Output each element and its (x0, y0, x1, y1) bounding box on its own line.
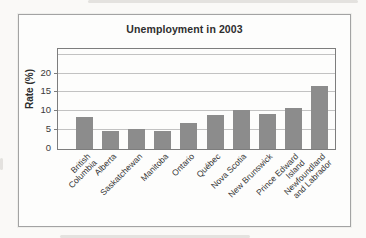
bars-layer (58, 49, 335, 149)
scan-artifact (0, 158, 3, 170)
y-tick-mark-15 (54, 91, 58, 92)
y-tick-mark-5 (54, 129, 58, 130)
scan-artifact (60, 235, 250, 238)
bar-british-columbia (76, 117, 93, 149)
y-tick-label-10: 10 (33, 105, 51, 115)
y-tick-mark-10 (54, 110, 58, 111)
bar-prince-edward-island (285, 108, 302, 149)
y-tick-label-5: 5 (33, 124, 51, 134)
x-tick-label-ontario: Ontario (170, 152, 196, 178)
plot-area (57, 48, 336, 150)
bar-newfoundland-and-labrador (311, 86, 328, 149)
bar-manitoba (154, 131, 171, 149)
bar-nova-scotia (233, 110, 250, 149)
y-tick-mark-20 (54, 73, 58, 74)
x-axis-labels: BritishColumbiaAlbertaSaskatchewanManito… (57, 152, 334, 226)
y-tick-label-0: 0 (33, 143, 51, 153)
bar-saskatchewan (128, 129, 145, 149)
bar-ontario (180, 123, 197, 149)
bar-new-brunswick (259, 114, 276, 149)
y-tick-label-15: 15 (33, 86, 51, 96)
y-tick-label-20: 20 (33, 68, 51, 78)
bar-quebec (207, 115, 224, 149)
x-tick-label-manitoba: Manitoba (139, 152, 170, 183)
chart-title: Unemployment in 2003 (19, 23, 350, 35)
chart-figure: Unemployment in 2003 Rate (%) 05101520 B… (18, 14, 351, 227)
scan-artifact (88, 0, 358, 3)
bar-alberta (102, 131, 119, 149)
